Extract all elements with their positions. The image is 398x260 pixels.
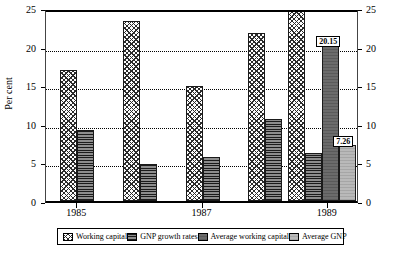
bar-working-capital-1985: [60, 70, 77, 201]
y-axis-tick-mark-left: [41, 87, 45, 88]
x-axis-tick-label: 1989: [307, 207, 347, 218]
bar-average-working-capital-1989: [322, 45, 339, 201]
y-axis-tick-label-left: 20: [6, 44, 36, 54]
y-axis-tick-label-left: 15: [6, 82, 36, 92]
y-axis-tick-label-right: 25: [366, 5, 396, 15]
y-axis-tick-label-right: 0: [366, 198, 396, 208]
bar-gnp-growth-rates-1989: [305, 153, 322, 201]
legend-label: GNP growth rates: [140, 232, 197, 241]
y-axis-tick-mark-right: [358, 49, 362, 50]
bar-gnp-growth-rates-1987: [203, 157, 220, 201]
bar-working-capital-1988: [248, 33, 265, 201]
y-axis-tick-mark-right: [358, 87, 362, 88]
y-axis-tick-label-left: 0: [6, 198, 36, 208]
legend-swatch-icon: [127, 233, 137, 241]
y-axis-tick-mark-left: [41, 49, 45, 50]
y-axis-tick-mark-left: [41, 164, 45, 165]
bar-working-capital-1989: [288, 12, 305, 201]
y-axis-tick-mark-left: [41, 203, 45, 204]
x-axis-tick-label: 1985: [56, 207, 96, 218]
y-axis-tick-label-left: 25: [6, 5, 36, 15]
y-axis-tick-mark-right: [358, 126, 362, 127]
y-axis-tick-mark-right: [358, 10, 362, 11]
legend-item-average-gnp[interactable]: Average GNP: [289, 232, 347, 241]
plot-area: [46, 12, 357, 201]
legend-label: Average GNP: [302, 232, 347, 241]
legend-label: Average working capital: [211, 232, 289, 241]
y-axis-tick-label-left: 5: [6, 159, 36, 169]
bar-working-capital-1986: [123, 21, 140, 201]
y-axis-tick-label-right: 15: [366, 82, 396, 92]
legend-item-working-capital[interactable]: Working capital: [63, 232, 127, 241]
y-axis-tick-mark-left: [41, 10, 45, 11]
gridline: [46, 51, 357, 52]
y-axis-tick-mark-right: [358, 164, 362, 165]
data-label: 20.15: [316, 36, 340, 47]
bar-gnp-growth-rates-1988: [265, 119, 282, 201]
bar-chart: Per cent Working capitalGNP growth rates…: [0, 0, 398, 260]
bar-gnp-growth-rates-1986: [140, 164, 157, 201]
y-axis-tick-label-right: 5: [366, 159, 396, 169]
y-axis-tick-label-right: 10: [366, 121, 396, 131]
plot-frame: [45, 10, 358, 203]
legend-swatch-icon: [198, 233, 208, 241]
y-axis-tick-mark-right: [358, 203, 362, 204]
bar-average-gnp-1989: [339, 145, 356, 201]
y-axis-tick-label-left: 10: [6, 121, 36, 131]
legend-label: Working capital: [76, 232, 127, 241]
legend-item-average-working-capital[interactable]: Average working capital: [198, 232, 289, 241]
legend-item-gnp-growth-rates[interactable]: GNP growth rates: [127, 232, 197, 241]
chart-legend: Working capitalGNP growth ratesAverage w…: [57, 228, 344, 245]
x-axis-tick-label: 1987: [182, 207, 222, 218]
y-axis-tick-label-right: 20: [366, 44, 396, 54]
bar-working-capital-1987: [186, 86, 203, 201]
bar-gnp-growth-rates-1985: [77, 130, 94, 201]
data-label: 7.26: [333, 136, 353, 147]
y-axis-tick-mark-left: [41, 126, 45, 127]
legend-swatch-icon: [289, 233, 299, 241]
legend-swatch-icon: [63, 233, 73, 241]
